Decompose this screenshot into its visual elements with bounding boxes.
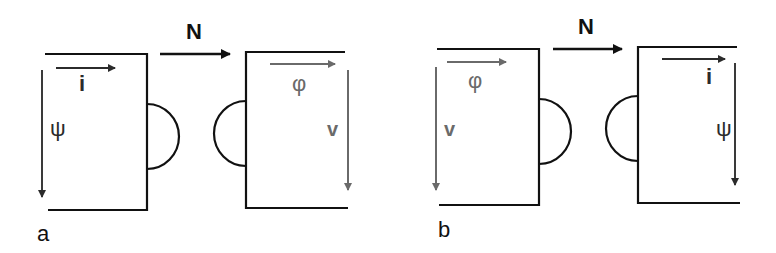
panel-b-flow-label: N — [578, 16, 594, 38]
knob-bump — [539, 99, 571, 164]
panel-a-left-v-label: ψ — [50, 118, 66, 140]
panel-b-right-h-label: i — [706, 66, 712, 88]
panel-b-left-h-label: φ — [468, 70, 482, 92]
panel-a-right-h-label: φ — [292, 73, 306, 95]
knob-bump — [214, 101, 246, 166]
panel-a-flow-label: N — [186, 21, 202, 43]
knob-bump — [606, 96, 638, 161]
knob-bump — [147, 104, 179, 169]
panel-a-left-h-label: i — [79, 73, 85, 95]
panel-a-right-v-label: v — [327, 119, 338, 139]
panel-b-label: b — [438, 219, 450, 241]
panel-b-left-block — [436, 49, 571, 205]
panel-a-label: a — [37, 223, 49, 245]
panel-b-right-v-label: ψ — [716, 118, 732, 140]
panel-b-left-v-label: v — [444, 119, 455, 139]
diagram-canvas — [0, 0, 776, 253]
